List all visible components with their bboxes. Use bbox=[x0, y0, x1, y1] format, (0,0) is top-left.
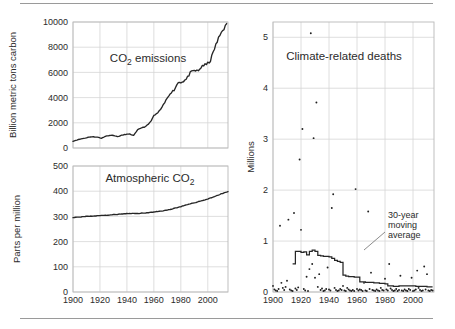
scatter-point bbox=[432, 290, 434, 292]
scatter-point bbox=[362, 290, 364, 292]
scatter-point bbox=[329, 290, 331, 292]
scatter-point bbox=[324, 290, 326, 292]
scatter-point bbox=[307, 290, 309, 292]
y-axis-tick-label: 10000 bbox=[43, 17, 68, 27]
scatter-point bbox=[318, 273, 320, 275]
atmospheric-co2-line bbox=[73, 192, 228, 218]
scatter-point bbox=[300, 229, 302, 231]
y-axis-title-atmospheric-co2: Parts per million bbox=[11, 195, 22, 263]
left-charts-svg: 0200040006000800010000CO2 emissionsBilli… bbox=[0, 0, 240, 329]
scatter-point bbox=[356, 288, 358, 290]
scatter-point bbox=[332, 193, 334, 195]
scatter-point bbox=[395, 288, 397, 290]
x-axis-tick-label: 1920 bbox=[90, 295, 110, 305]
right-column-panel: 012345190019201940196019802000Climate-re… bbox=[240, 0, 455, 329]
scatter-point bbox=[418, 287, 420, 289]
scatter-point bbox=[283, 289, 285, 291]
scatter-point bbox=[369, 288, 371, 290]
x-axis-tick-label: 1920 bbox=[291, 295, 311, 305]
x-axis-tick-label: 1980 bbox=[375, 295, 395, 305]
scatter-point bbox=[383, 290, 385, 292]
scatter-point bbox=[425, 289, 427, 291]
scatter-point bbox=[285, 286, 287, 288]
scatter-point bbox=[342, 285, 344, 287]
y-axis-tick-label: 0 bbox=[63, 143, 68, 153]
plot-frame bbox=[73, 166, 228, 292]
scatter-point bbox=[355, 188, 357, 190]
scatter-point bbox=[353, 290, 355, 292]
chart-title-climate-related-deaths: Climate-related deaths bbox=[286, 50, 402, 62]
y-axis-tick-label: 3 bbox=[263, 134, 268, 144]
scatter-point bbox=[346, 287, 348, 289]
scatter-point bbox=[306, 276, 308, 278]
scatter-point bbox=[279, 225, 281, 227]
y-axis-tick-label: 6000 bbox=[48, 68, 68, 78]
scatter-point bbox=[282, 287, 284, 289]
y-axis-tick-label: 2000 bbox=[48, 118, 68, 128]
x-axis-tick-label: 1940 bbox=[117, 295, 137, 305]
scatter-point bbox=[331, 207, 333, 209]
scatter-point bbox=[311, 263, 313, 265]
scatter-point bbox=[341, 289, 343, 291]
scatter-point bbox=[299, 159, 301, 161]
y-axis-tick-label: 100 bbox=[53, 262, 68, 272]
scatter-point bbox=[378, 290, 380, 292]
y-axis-tick-label: 2 bbox=[263, 185, 268, 195]
x-axis-tick-label: 1980 bbox=[171, 295, 191, 305]
scatter-point bbox=[303, 288, 305, 290]
scatter-point bbox=[367, 211, 369, 213]
scatter-point bbox=[313, 137, 315, 139]
x-axis-tick-label: 2000 bbox=[198, 295, 218, 305]
scatter-point bbox=[276, 290, 278, 292]
scatter-point bbox=[294, 287, 296, 289]
scatter-point bbox=[278, 288, 280, 290]
scatter-point bbox=[297, 286, 299, 288]
scatter-point bbox=[411, 277, 413, 279]
scatter-point bbox=[321, 287, 323, 289]
y-axis-tick-label: 300 bbox=[53, 212, 68, 222]
scatter-point bbox=[384, 278, 386, 280]
scatter-point bbox=[334, 287, 336, 289]
y-axis-tick-label: 200 bbox=[53, 237, 68, 247]
scatter-point bbox=[315, 102, 317, 104]
scatter-point bbox=[388, 263, 390, 265]
y-axis-tick-label: 5 bbox=[263, 32, 268, 42]
scatter-point bbox=[292, 290, 294, 292]
x-axis-tick-label: 1940 bbox=[319, 295, 339, 305]
moving-average-annotation: 30-yearmovingaverage bbox=[388, 210, 421, 240]
scatter-point bbox=[380, 287, 382, 289]
y-axis-tick-label: 4000 bbox=[48, 93, 68, 103]
scatter-point bbox=[406, 290, 408, 292]
scatter-point bbox=[286, 280, 288, 282]
left-column-panels: 0200040006000800010000CO2 emissionsBilli… bbox=[0, 0, 240, 329]
scatter-point bbox=[387, 290, 389, 292]
x-axis-tick-label: 1960 bbox=[347, 295, 367, 305]
chart-title-atmospheric-co2: Atmospheric CO2 bbox=[105, 172, 194, 187]
scatter-point bbox=[301, 128, 303, 130]
scatter-point bbox=[293, 212, 295, 214]
scatter-point bbox=[402, 290, 404, 292]
scatter-point bbox=[409, 289, 411, 291]
x-axis-tick-label: 1900 bbox=[63, 295, 83, 305]
chart-title-co2-emissions: CO2 emissions bbox=[110, 52, 187, 67]
chart-climate-related-deaths: 012345190019201940196019802000Climate-re… bbox=[245, 22, 434, 305]
scatter-point bbox=[308, 268, 310, 270]
climate-deaths-svg: 012345190019201940196019802000Climate-re… bbox=[240, 0, 455, 329]
scatter-point bbox=[304, 290, 306, 292]
scatter-point bbox=[296, 289, 298, 291]
y-axis-tick-label: 1 bbox=[263, 236, 268, 246]
scatter-point bbox=[416, 270, 418, 272]
scatter-point bbox=[272, 285, 274, 287]
y-axis-tick-label: 4 bbox=[263, 83, 268, 93]
chart-atmospheric-co2: 0100200300400500190019201940196019802000… bbox=[11, 161, 228, 305]
scatter-point bbox=[390, 287, 392, 289]
scatter-point bbox=[366, 290, 368, 292]
scatter-point bbox=[422, 290, 424, 292]
y-axis-title-climate-deaths: Millions bbox=[245, 141, 256, 173]
scatter-point bbox=[394, 290, 396, 292]
scatter-point bbox=[280, 282, 282, 284]
co2-emissions-line bbox=[73, 24, 227, 142]
y-axis-tick-label: 400 bbox=[53, 186, 68, 196]
plot-frame bbox=[73, 22, 228, 148]
x-axis-tick-label: 2000 bbox=[403, 295, 423, 305]
